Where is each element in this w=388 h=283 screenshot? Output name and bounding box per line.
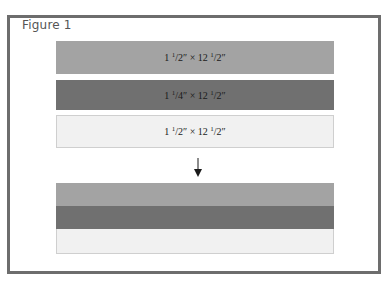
strip-1: 1 1/2″ × 12 1/2″ (56, 41, 334, 74)
strip-1-dimension: 1 1/2″ × 12 1/2″ (164, 51, 226, 63)
sewn-band-1 (56, 183, 334, 206)
strip-2-dimension: 1 1/4″ × 12 1/2″ (164, 89, 226, 101)
sewn-band-3 (56, 229, 334, 254)
sewn-band-2 (56, 206, 334, 229)
figure-title: Figure 1 (22, 18, 72, 32)
strip-3-dimension: 1 1/2″ × 12 1/2″ (164, 125, 226, 137)
strip-2: 1 1/4″ × 12 1/2″ (56, 80, 334, 110)
arrow-down-icon (191, 158, 205, 178)
strip-3: 1 1/2″ × 12 1/2″ (56, 115, 334, 148)
